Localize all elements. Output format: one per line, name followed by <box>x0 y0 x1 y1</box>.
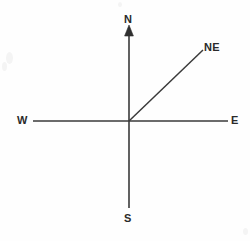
northeast-ray-line <box>129 50 203 121</box>
direction-label-northeast: NE <box>204 42 220 53</box>
direction-label-north: N <box>124 14 132 25</box>
direction-label-south: S <box>124 213 132 224</box>
compass-canvas <box>0 0 250 241</box>
north-arrowhead-icon <box>125 25 134 36</box>
compass-diagram: N NE E S W <box>0 0 250 241</box>
direction-label-west: W <box>17 115 28 126</box>
direction-label-east: E <box>231 115 239 126</box>
